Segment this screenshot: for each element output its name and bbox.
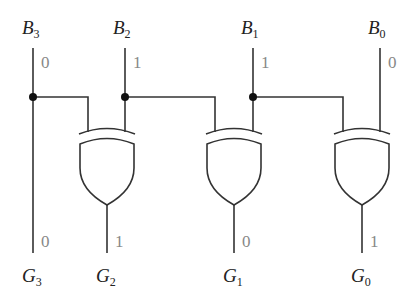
circuit-drawing: [0, 0, 412, 301]
output-label-g3: G3: [22, 266, 42, 288]
xor-gate-3: [334, 129, 390, 254]
output-bit-g0: 1: [370, 233, 379, 250]
input-label-b2: B2: [113, 18, 131, 40]
output-label-g0: G0: [351, 266, 371, 288]
junction-dot-b1: [249, 93, 257, 101]
xor-gate-1: [79, 129, 135, 254]
input-bit-b0: 0: [388, 54, 397, 71]
output-label-g2: G2: [96, 266, 116, 288]
output-bit-g1: 0: [242, 233, 251, 250]
junction-dot-b3: [29, 93, 37, 101]
wire-b1-gate3: [253, 97, 343, 132]
output-bit-g2: 1: [115, 233, 124, 250]
xor-gate-2: [206, 129, 262, 254]
wire-b3-gate1: [33, 97, 88, 132]
input-bit-b2: 1: [133, 54, 142, 71]
gray-code-converter-diagram: B3 B2 B1 B0 0 1 1 0 0 1 0 1 G3 G2 G1 G0: [0, 0, 412, 301]
input-label-b3: B3: [22, 18, 40, 40]
input-label-b1: B1: [241, 18, 259, 40]
output-label-g1: G1: [223, 266, 243, 288]
wire-b2-gate2: [125, 97, 215, 132]
junction-dot-b2: [121, 93, 129, 101]
input-label-b0: B0: [368, 18, 386, 40]
output-bit-g3: 0: [41, 233, 50, 250]
input-bit-b3: 0: [41, 54, 50, 71]
input-bit-b1: 1: [261, 54, 270, 71]
